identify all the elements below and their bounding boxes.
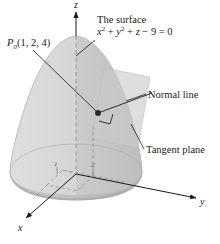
y-axis-label: y bbox=[200, 196, 204, 207]
surface-equation-label: x2 + y2 + z − 9 = 0 bbox=[97, 26, 173, 38]
normal-line-label: Normal line bbox=[148, 89, 198, 101]
z-axis-label: z bbox=[74, 0, 78, 10]
x-axis-label: x bbox=[18, 222, 22, 233]
tangent-plane-label: Tangent plane bbox=[146, 144, 205, 156]
y-tick-label: 2 bbox=[91, 161, 95, 169]
x-tick-label: 1 bbox=[54, 160, 58, 168]
point-p0-label: P0(1, 2, 4) bbox=[7, 37, 50, 49]
